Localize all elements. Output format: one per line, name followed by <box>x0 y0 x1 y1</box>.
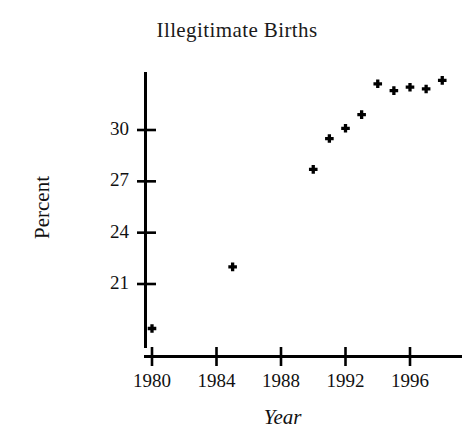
data-point-markers <box>148 76 447 333</box>
data-point <box>357 110 366 119</box>
chart-figure: Illegitimate Births 21242730 19801984198… <box>0 0 474 447</box>
data-point <box>422 85 431 94</box>
data-point <box>341 124 350 133</box>
y-tick-label: 27 <box>89 169 129 191</box>
y-tick-label: 30 <box>89 118 129 140</box>
y-tick-label: 24 <box>89 221 129 243</box>
x-tick-label: 1992 <box>314 370 378 392</box>
y-axis-title: Percent <box>30 148 55 268</box>
x-tick-label: 1980 <box>120 370 184 392</box>
x-tick-label: 1996 <box>378 370 442 392</box>
data-point <box>148 324 157 333</box>
x-axis-title: Year <box>150 405 415 430</box>
x-tick-label: 1984 <box>185 370 249 392</box>
data-point <box>406 83 415 92</box>
data-point <box>228 263 237 272</box>
data-point <box>438 76 447 85</box>
y-tick-label: 21 <box>89 272 129 294</box>
data-point <box>373 80 382 89</box>
plot-area: 21242730 19801984198819921996 <box>0 0 474 447</box>
data-point <box>390 86 399 95</box>
data-point <box>325 134 334 143</box>
x-tick-label: 1988 <box>249 370 313 392</box>
data-point <box>309 165 318 174</box>
